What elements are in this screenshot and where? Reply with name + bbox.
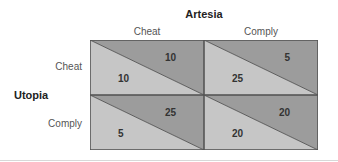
cell-diagonal-shading [204, 95, 318, 150]
artesia-payoff: 10 [165, 52, 176, 63]
payoff-matrix: 10 10 5 25 25 5 20 20 [90, 40, 318, 150]
artesia-payoff: 5 [284, 52, 290, 63]
row-label-comply: Comply [42, 118, 82, 129]
column-player-label: Artesia [90, 8, 318, 20]
row-player-label: Utopia [14, 89, 48, 101]
payoff-cell-cheat-cheat: 10 10 [90, 40, 204, 95]
cell-diagonal-shading [204, 40, 318, 95]
utopia-payoff: 25 [232, 73, 243, 84]
utopia-payoff: 20 [232, 128, 243, 139]
column-label-cheat: Cheat [90, 26, 204, 37]
payoff-cell-cheat-comply: 5 25 [204, 40, 318, 95]
artesia-payoff: 20 [279, 107, 290, 118]
artesia-payoff: 25 [165, 107, 176, 118]
bottom-divider [0, 160, 338, 161]
payoff-cell-comply-cheat: 25 5 [90, 95, 204, 150]
row-label-cheat: Cheat [42, 61, 82, 72]
payoff-cell-comply-comply: 20 20 [204, 95, 318, 150]
utopia-payoff: 5 [118, 128, 124, 139]
cell-diagonal-shading [90, 95, 204, 150]
utopia-payoff: 10 [118, 73, 129, 84]
column-label-comply: Comply [204, 26, 318, 37]
cell-diagonal-shading [90, 40, 204, 95]
